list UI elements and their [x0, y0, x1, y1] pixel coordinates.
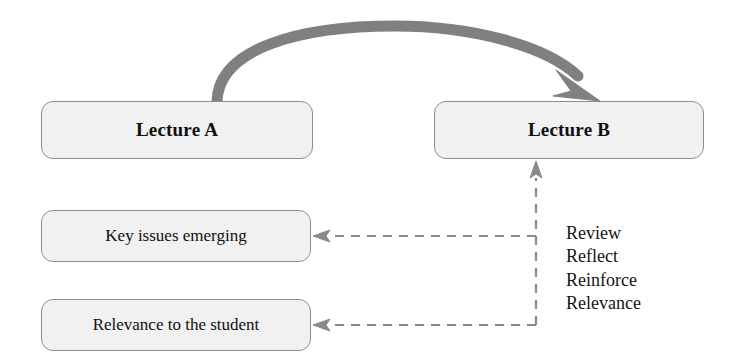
- curved-arrow-lecture-a-to-lecture-b: [217, 26, 600, 101]
- action-list-item-relevance: Relevance: [566, 292, 641, 315]
- node-relevance-to-the-student-label: Relevance to the student: [93, 315, 260, 335]
- dashed-connector-key-issues: [313, 230, 536, 242]
- node-key-issues-emerging-label: Key issues emerging: [105, 226, 246, 246]
- dashed-connector-relevance: [313, 319, 536, 331]
- action-list-item-reflect: Reflect: [566, 245, 641, 268]
- action-list-item-review: Review: [566, 222, 641, 245]
- node-lecture-b: Lecture B: [434, 101, 704, 159]
- action-list: Review Reflect Reinforce Relevance: [566, 222, 641, 316]
- node-lecture-a-label: Lecture A: [136, 119, 218, 141]
- node-lecture-a: Lecture A: [41, 101, 313, 159]
- diagram-canvas: Lecture A Lecture B Key issues emerging …: [0, 0, 736, 363]
- action-list-item-reinforce: Reinforce: [566, 269, 641, 292]
- node-lecture-b-label: Lecture B: [528, 119, 610, 141]
- dashed-connector-vertical: [530, 161, 542, 325]
- node-key-issues-emerging: Key issues emerging: [41, 210, 311, 262]
- node-relevance-to-the-student: Relevance to the student: [41, 299, 311, 351]
